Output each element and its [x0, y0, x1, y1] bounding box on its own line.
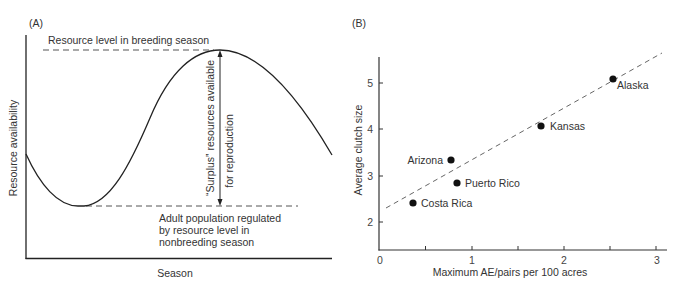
figure-canvas: (A) Resource availability Season Resourc…	[0, 0, 693, 299]
point-costa-rica	[409, 199, 416, 206]
y-tick-5: 5	[367, 77, 373, 89]
nonbreeding-annotation-line3: nonbreeding season	[159, 236, 254, 248]
y-tick-3: 3	[367, 170, 373, 182]
arrowhead-up-icon	[218, 50, 223, 57]
x-tick-0: 0	[377, 254, 383, 266]
label-arizona: Arizona	[407, 154, 443, 166]
resource-availability-curve	[26, 50, 332, 206]
panel-a-y-axis-label: Resource availability	[7, 99, 19, 196]
panel-a-label: (A)	[29, 17, 43, 29]
y-tick-4: 4	[367, 123, 373, 135]
point-arizona	[447, 156, 454, 163]
arrowhead-down-icon	[218, 199, 223, 206]
surplus-annotation-line1: “Surplus” resources available	[204, 60, 216, 196]
panel-b-label: (B)	[352, 17, 366, 29]
label-costa-rica: Costa Rica	[421, 197, 473, 209]
breeding-level-annotation: Resource level in breeding season	[48, 34, 209, 46]
nonbreeding-annotation-line2: by resource level in	[159, 224, 250, 236]
label-kansas: Kansas	[550, 120, 585, 132]
label-puerto-rico: Puerto Rico	[465, 177, 520, 189]
panel-b-y-axis-label: Average clutch size	[352, 104, 364, 195]
surplus-annotation-line2: for reproduction	[223, 114, 235, 188]
x-tick-3: 3	[654, 254, 660, 266]
panel-a: (A) Resource availability Season Resourc…	[7, 17, 332, 279]
point-kansas	[537, 122, 544, 129]
nonbreeding-annotation-line1: Adult population regulated	[159, 212, 281, 224]
panel-a-x-axis-label: Season	[157, 267, 193, 279]
y-tick-2: 2	[367, 216, 373, 228]
x-tick-2: 2	[561, 254, 567, 266]
panel-b-x-axis-label: Maximum AE/pairs per 100 acres	[433, 266, 588, 278]
panel-b-y-ticks: 2 3 4 5	[367, 77, 383, 228]
x-tick-1: 1	[469, 254, 475, 266]
trend-line	[386, 53, 662, 208]
label-alaska: Alaska	[617, 79, 649, 91]
point-puerto-rico	[453, 179, 460, 186]
panel-b-x-ticks: 0 1 2 3	[377, 246, 660, 266]
panel-b: (B) 2 3 4 5 0 1 2 3 Maxi	[352, 17, 667, 278]
point-alaska	[609, 75, 616, 82]
